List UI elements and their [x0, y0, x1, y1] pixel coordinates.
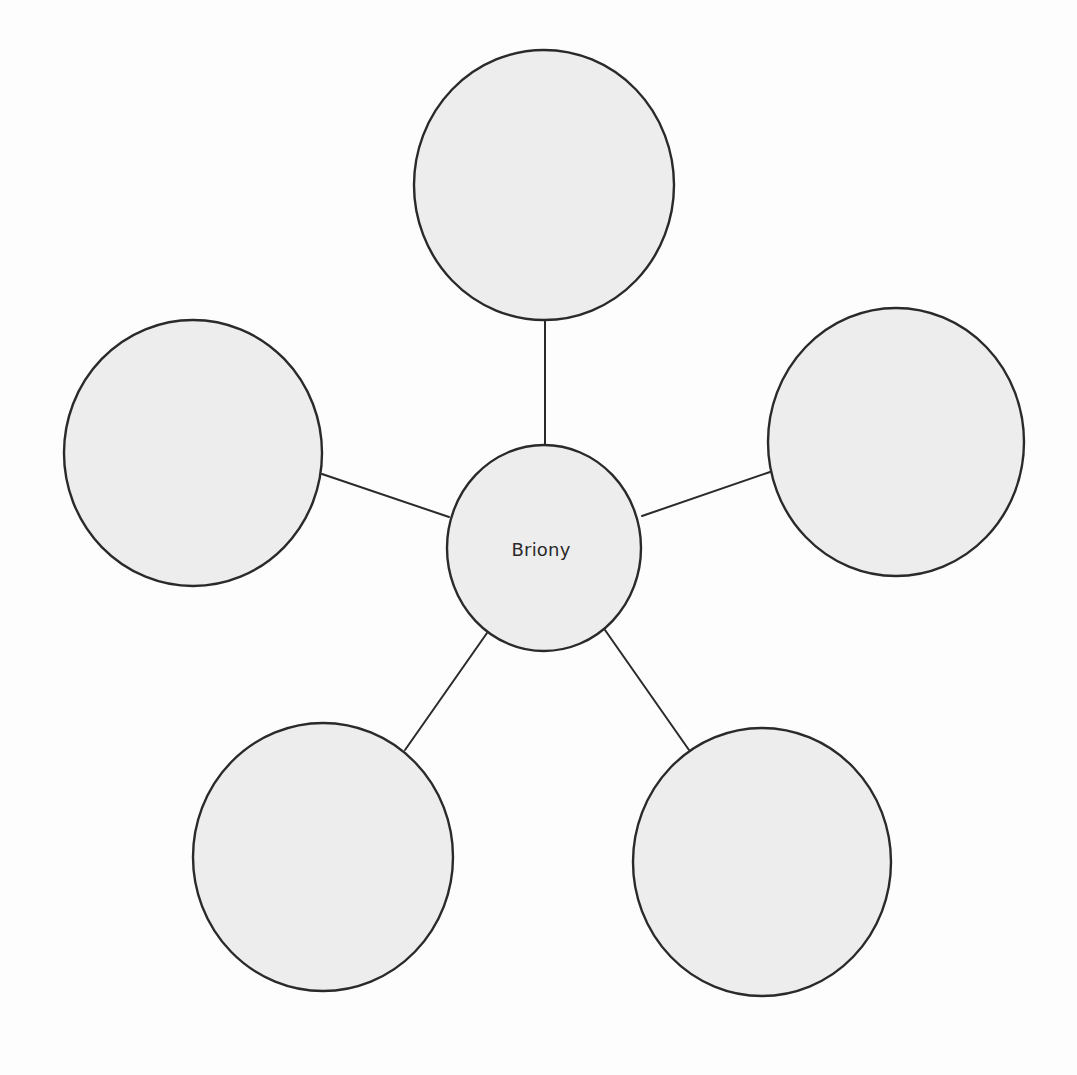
- diagram-canvas: [0, 0, 1077, 1075]
- connector-line-bottom-left: [405, 633, 487, 750]
- center-bubble-label: Briony: [511, 539, 570, 560]
- connector-line-bottom-right: [605, 630, 689, 750]
- connector-line-right: [642, 472, 770, 516]
- bubble-bottom-left: [193, 723, 453, 991]
- bubble-left: [64, 320, 322, 586]
- bubble-right: [768, 308, 1024, 576]
- bubble-top: [414, 50, 674, 320]
- bubble-bottom-right: [633, 728, 891, 996]
- spider-diagram: Briony: [0, 0, 1077, 1075]
- connector-line-left: [322, 474, 449, 517]
